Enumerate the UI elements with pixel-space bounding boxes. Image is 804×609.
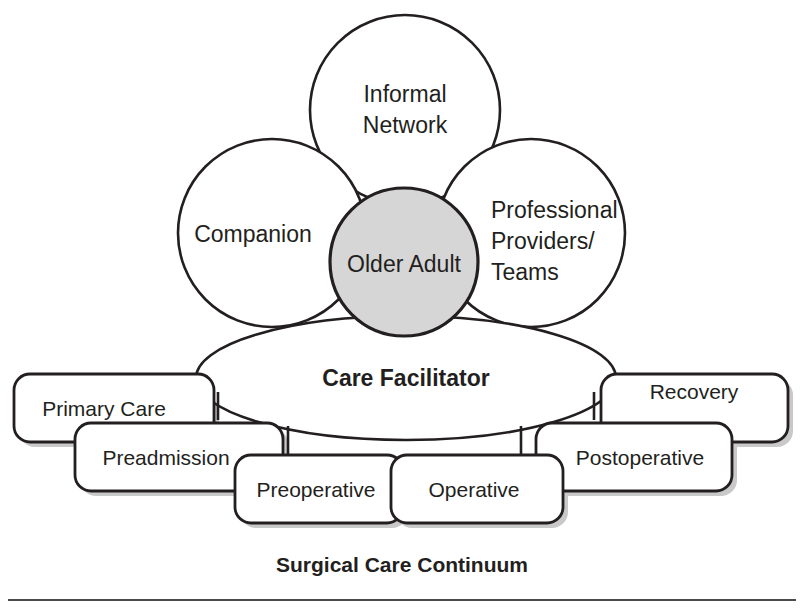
box-label-recovery: Recovery	[650, 380, 739, 403]
circle-label-professional-providers-line2: Providers/	[491, 228, 595, 254]
box-label-postoperative: Postoperative	[576, 446, 704, 469]
box-label-preoperative: Preoperative	[256, 478, 375, 501]
figure-caption: Surgical Care Continuum	[276, 553, 528, 576]
box-label-operative: Operative	[428, 478, 519, 501]
ellipse-label-care-facilitator: Care Facilitator	[322, 365, 489, 391]
circle-label-professional-providers-line3: Teams	[491, 259, 559, 285]
circle-label-informal-network-line1: Informal	[363, 81, 446, 107]
box-label-preadmission: Preadmission	[102, 446, 229, 469]
center-label-older-adult: Older Adult	[347, 251, 461, 277]
care-model-diagram: Informal Network Companion Professional …	[0, 0, 804, 609]
box-label-primary-care: Primary Care	[42, 397, 166, 420]
circle-label-professional-providers-line1: Professional	[491, 197, 618, 223]
circle-label-informal-network-line2: Network	[363, 112, 448, 138]
diagram-canvas: Informal Network Companion Professional …	[0, 0, 804, 609]
circle-label-companion: Companion	[194, 221, 312, 247]
